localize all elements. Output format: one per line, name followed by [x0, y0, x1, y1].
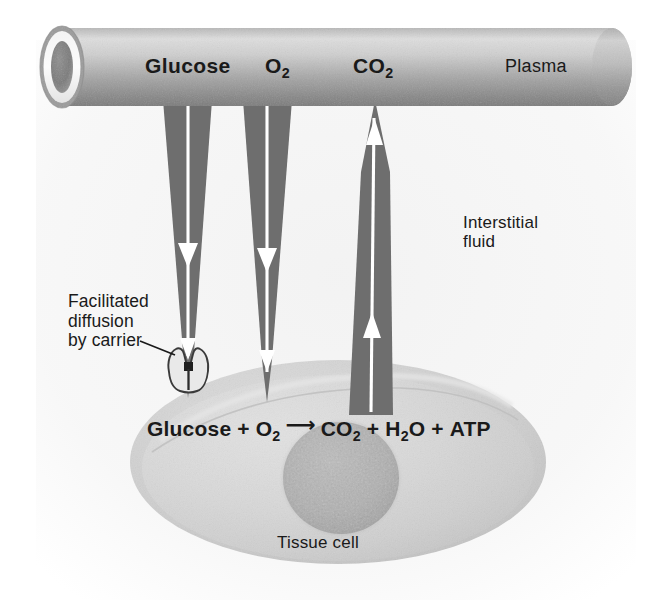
equation-plus-1: +	[237, 417, 249, 440]
equation-plus-2: +	[367, 417, 379, 440]
equation-product-carbon-dioxide-subscript: 2	[353, 428, 361, 444]
label-interstitial-fluid: Interstitial fluid	[463, 213, 538, 251]
equation-product-water-subscript: 2	[401, 428, 409, 444]
equation-reactant-oxygen: O	[256, 417, 273, 440]
label-oxygen-text: O	[265, 54, 282, 77]
label-carbon-dioxide-subscript: 2	[385, 65, 393, 81]
label-oxygen: O2	[265, 54, 290, 81]
equation-product-water: H	[385, 417, 400, 440]
label-carbon-dioxide-text: CO	[353, 54, 385, 77]
label-facilitated-diffusion: Facilitated diffusion by carrier	[68, 292, 149, 351]
vessel-lumen	[51, 41, 73, 93]
label-carbon-dioxide: CO2	[353, 54, 394, 81]
equation-plus-3: +	[431, 417, 443, 440]
equation-product-water-tail: O	[409, 417, 426, 440]
equation-reactant-glucose: Glucose	[147, 417, 231, 440]
label-plasma: Plasma	[505, 56, 567, 76]
label-oxygen-subscript: 2	[282, 65, 290, 81]
figure-canvas: Glucose O2 CO2 Plasma Interstitial fluid…	[0, 0, 649, 614]
equation-product-carbon-dioxide: CO	[321, 417, 353, 440]
equation-reactant-oxygen-subscript: 2	[272, 428, 280, 444]
label-glucose: Glucose	[145, 54, 231, 78]
equation-product-atp: ATP	[450, 417, 491, 440]
respiration-equation: Glucose+O2⟶CO2+H2O+ATP	[147, 417, 491, 444]
label-tissue-cell: Tissue cell	[277, 533, 359, 552]
equation-yields-arrow: ⟶	[285, 413, 315, 437]
